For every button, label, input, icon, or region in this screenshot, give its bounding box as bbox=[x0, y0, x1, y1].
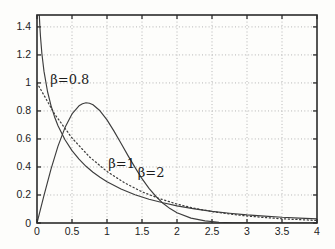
curve-beta-0-8 bbox=[38, 0, 317, 219]
y-tick-label: 0.6 bbox=[16, 132, 31, 144]
figure: 00.511.522.533.5400.20.40.60.811.21.4β=0… bbox=[0, 0, 335, 249]
y-tick-label: 0.8 bbox=[16, 104, 31, 116]
curve-label-beta-2: β=2 bbox=[138, 165, 165, 180]
y-tick-label: 1.2 bbox=[16, 48, 31, 60]
curve-label-beta-1: β=1 bbox=[108, 156, 135, 171]
x-tick-label: 2 bbox=[174, 225, 180, 237]
y-tick-label: 1.4 bbox=[16, 20, 31, 32]
x-tick-label: 4 bbox=[314, 225, 320, 237]
weibull-pdf-chart: 00.511.522.533.5400.20.40.60.811.21.4β=0… bbox=[0, 0, 335, 249]
curve-label-beta-0-8: β=0.8 bbox=[50, 72, 89, 87]
plot-frame bbox=[37, 15, 317, 223]
x-tick-label: 0 bbox=[34, 225, 40, 237]
x-tick-label: 3.5 bbox=[275, 225, 290, 237]
x-tick-label: 2.5 bbox=[205, 225, 220, 237]
y-tick-label: 0.2 bbox=[16, 188, 31, 200]
x-tick-label: 3 bbox=[244, 225, 250, 237]
y-tick-label: 0.4 bbox=[16, 160, 31, 172]
x-tick-label: 1.5 bbox=[135, 225, 150, 237]
x-tick-label: 0.5 bbox=[65, 225, 80, 237]
y-tick-label: 1 bbox=[25, 76, 31, 88]
x-tick-label: 1 bbox=[104, 225, 110, 237]
y-tick-label: 0 bbox=[25, 217, 31, 229]
